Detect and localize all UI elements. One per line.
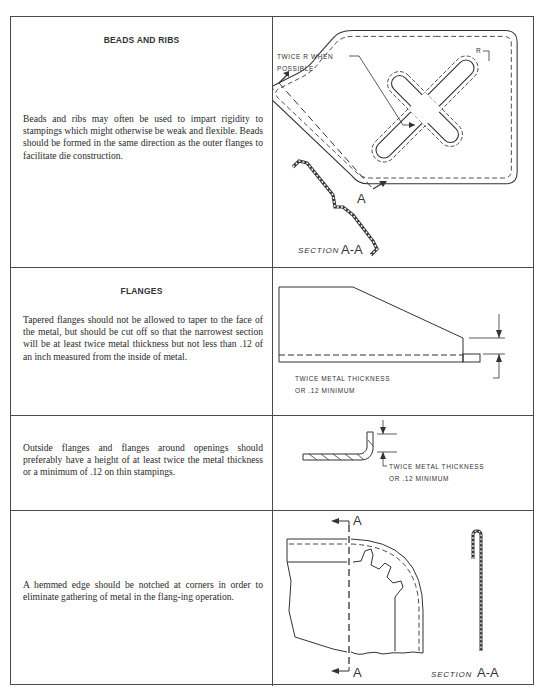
section-marker-bottom: A <box>353 665 362 680</box>
section-label-id: A-A <box>477 665 499 680</box>
text-cell: A hemmed edge should be notched at corne… <box>11 511 273 686</box>
tapered-flange-drawing: TWICE METAL THICKNESS OR .12 MINIMUM <box>273 268 535 414</box>
section-heading: BEADS AND RIBS <box>11 35 272 45</box>
design-guidelines-table: BEADS AND RIBS Beads and ribs may often … <box>10 16 534 685</box>
dimension-label-line2: OR .12 MINIMUM <box>295 387 355 394</box>
text-cell: Outside flanges and flanges around openi… <box>11 416 273 510</box>
callout-line2: POSSIBLE <box>277 65 314 72</box>
outside-flange-drawing: TWICE METAL THICKNESS OR .12 MINIMUM <box>273 416 535 509</box>
section-body: A hemmed edge should be notched at corne… <box>23 579 263 603</box>
section-body: Outside flanges and flanges around openi… <box>23 442 263 479</box>
figure-cell: TWICE METAL THICKNESS OR .12 MINIMUM <box>273 268 533 415</box>
section-label-id: A-A <box>341 242 363 257</box>
section-heading: FLANGES <box>11 286 272 296</box>
figure-cell: TWICE METAL THICKNESS OR .12 MINIMUM <box>273 416 533 510</box>
section-flanges: FLANGES Tapered flanges should not be al… <box>11 268 533 416</box>
figure-cell: A A TWICE R WHEN POSSIBLE R SECTION A-A <box>273 17 533 267</box>
section-label-prefix: SECTION <box>431 670 472 679</box>
callout-line1: TWICE R WHEN <box>277 53 333 60</box>
section-label-prefix: SECTION <box>298 246 339 255</box>
beads-ribs-drawing: A A TWICE R WHEN POSSIBLE R SECTION A-A <box>273 17 535 267</box>
section-body: Beads and ribs may often be used to impa… <box>23 113 263 162</box>
dimension-label-line1: TWICE METAL THICKNESS <box>389 463 484 470</box>
section-marker-top: A <box>353 513 362 528</box>
text-cell: BEADS AND RIBS Beads and ribs may often … <box>11 17 273 267</box>
section-body: Tapered flanges should not be allowed to… <box>23 314 263 363</box>
dimension-label-line2: OR .12 MINIMUM <box>389 475 449 482</box>
radius-label: R <box>476 47 481 54</box>
section-hemmed-edge: A hemmed edge should be notched at corne… <box>11 511 533 686</box>
hemmed-edge-drawing: A A SECTION A-A <box>273 511 535 684</box>
figure-cell: A A SECTION A-A <box>273 511 533 686</box>
text-cell: FLANGES Tapered flanges should not be al… <box>11 268 273 415</box>
section-outside-flanges: Outside flanges and flanges around openi… <box>11 416 533 511</box>
section-marker-bottom: A <box>357 191 366 206</box>
dimension-label-line1: TWICE METAL THICKNESS <box>295 375 390 382</box>
section-beads-and-ribs: BEADS AND RIBS Beads and ribs may often … <box>11 17 533 268</box>
